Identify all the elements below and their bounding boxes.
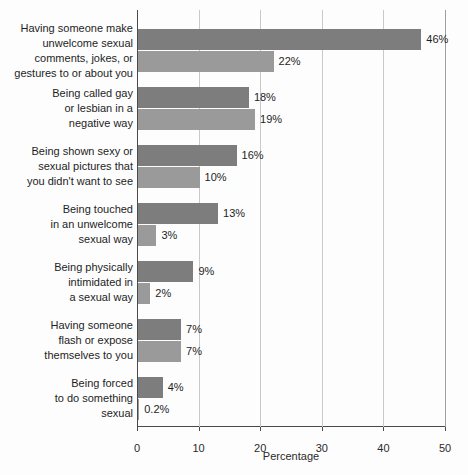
- bar-girls-5: [138, 319, 181, 340]
- bar-value-boys-2: 10%: [205, 167, 227, 188]
- bar-value-boys-1: 19%: [260, 109, 282, 130]
- bar-value-girls-5: 7%: [186, 319, 202, 340]
- x-axis-line: [137, 426, 445, 427]
- bar-boys-3: [138, 225, 156, 246]
- x-axis-title: Percentage: [137, 450, 445, 462]
- tick-50: [445, 427, 446, 431]
- bar-girls-6: [138, 377, 163, 398]
- bar-girls-3: [138, 203, 218, 224]
- category-label-line: sexual pictures that: [3, 159, 133, 174]
- category-label-3: Being touchedin an unwelcomesexual way: [3, 202, 133, 247]
- bar-girls-4: [138, 261, 193, 282]
- bar-value-boys-4: 2%: [155, 283, 171, 304]
- category-label-line: gestures to or about you: [3, 66, 133, 81]
- category-label-line: Being shown sexy or: [3, 144, 133, 159]
- category-label-line: comments, jokes, or: [3, 51, 133, 66]
- bar-value-boys-6: 0.2%: [144, 399, 169, 420]
- category-label-2: Being shown sexy orsexual pictures thaty…: [3, 144, 133, 189]
- category-label-column: Having someone makeunwelcome sexualcomme…: [0, 0, 133, 475]
- bar-value-boys-3: 3%: [161, 225, 177, 246]
- bar-boys-1: [138, 109, 255, 130]
- category-label-line: negative way: [3, 116, 133, 131]
- category-label-1: Being called gayor lesbian in anegative …: [3, 86, 133, 131]
- category-label-line: in an unwelcome: [3, 217, 133, 232]
- tick-10: [199, 427, 200, 431]
- bar-boys-6: [138, 399, 139, 420]
- category-label-line: Being physically: [3, 260, 133, 275]
- tick-40: [383, 427, 384, 431]
- bar-value-boys-0: 22%: [279, 51, 301, 72]
- gridline-50: [445, 10, 446, 427]
- category-label-line: sexual: [3, 406, 133, 421]
- gridline-30: [322, 10, 323, 427]
- bar-girls-1: [138, 87, 249, 108]
- bar-value-girls-2: 16%: [242, 145, 264, 166]
- category-label-line: unwelcome sexual: [3, 36, 133, 51]
- gridline-40: [383, 10, 384, 427]
- category-label-line: Being touched: [3, 202, 133, 217]
- category-label-line: Having someone make: [3, 21, 133, 36]
- category-label-line: themselves to you: [3, 348, 133, 363]
- bar-value-girls-3: 13%: [223, 203, 245, 224]
- category-label-0: Having someone makeunwelcome sexualcomme…: [3, 21, 133, 81]
- bar-boys-2: [138, 167, 200, 188]
- tick-30: [322, 427, 323, 431]
- tick-0: [137, 427, 138, 431]
- category-label-line: intimidated in: [3, 275, 133, 290]
- gridline-20: [260, 10, 261, 427]
- category-label-line: to do something: [3, 391, 133, 406]
- category-label-line: Being called gay: [3, 86, 133, 101]
- category-label-line: Being forced: [3, 376, 133, 391]
- bar-girls-2: [138, 145, 237, 166]
- bar-value-girls-0: 46%: [426, 29, 448, 50]
- chart-figure: Having someone makeunwelcome sexualcomme…: [0, 0, 468, 475]
- bar-value-girls-1: 18%: [254, 87, 276, 108]
- category-label-line: flash or expose: [3, 333, 133, 348]
- category-label-line: Having someone: [3, 318, 133, 333]
- plot-area: 46%22%18%19%16%10%13%3%9%2%7%7%4%0.2% 01…: [137, 10, 445, 427]
- bar-boys-5: [138, 341, 181, 362]
- bar-value-girls-4: 9%: [198, 261, 214, 282]
- category-label-line: a sexual way: [3, 290, 133, 305]
- category-label-line: you didn't want to see: [3, 174, 133, 189]
- category-label-6: Being forcedto do somethingsexual: [3, 376, 133, 421]
- category-label-line: sexual way: [3, 232, 133, 247]
- bar-girls-0: [138, 29, 421, 50]
- category-label-4: Being physicallyintimidated ina sexual w…: [3, 260, 133, 305]
- category-label-5: Having someoneflash or exposethemselves …: [3, 318, 133, 363]
- bar-value-girls-6: 4%: [168, 377, 184, 398]
- category-label-line: or lesbian in a: [3, 101, 133, 116]
- tick-20: [260, 427, 261, 431]
- bar-value-boys-5: 7%: [186, 341, 202, 362]
- bar-boys-0: [138, 51, 274, 72]
- bar-boys-4: [138, 283, 150, 304]
